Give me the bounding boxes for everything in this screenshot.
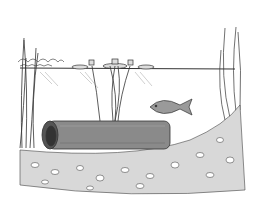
water-hatching xyxy=(40,72,152,88)
gravel-bottom xyxy=(20,105,245,194)
lily-stems xyxy=(92,66,130,121)
surface-foliage-left xyxy=(18,59,64,66)
plants-right xyxy=(220,27,241,120)
lily-pads xyxy=(72,59,154,69)
pond-illustration xyxy=(0,0,265,213)
fish xyxy=(150,99,192,115)
water-surface xyxy=(20,68,235,69)
drainage-pipe xyxy=(42,121,170,149)
reeds-left xyxy=(20,38,38,148)
